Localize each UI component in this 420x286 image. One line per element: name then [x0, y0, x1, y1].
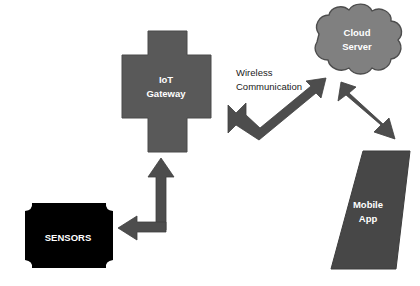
cloud-server-label-line1: Cloud: [344, 27, 371, 38]
node-cloud-server[interactable]: Cloud Server: [315, 4, 401, 74]
iot-gateway-label-line1: IoT: [159, 74, 173, 85]
edge-sensors-gateway[interactable]: [118, 158, 178, 245]
node-iot-gateway[interactable]: IoT Gateway: [122, 31, 211, 152]
mobile-app-label-line1: Mobile: [353, 199, 383, 210]
mobile-app-label-line2: App: [359, 213, 378, 224]
wireless-communication-label-line2: Communication: [236, 81, 302, 92]
node-sensors[interactable]: SENSORS: [25, 203, 113, 268]
iot-architecture-diagram: IoT Gateway Cloud Server Mobile App SENS…: [0, 0, 420, 286]
edge-cloud-mobile-arrow: [338, 82, 395, 139]
edge-gateway-cloud[interactable]: Wireless Communication: [228, 67, 326, 140]
diagram-canvas: IoT Gateway Cloud Server Mobile App SENS…: [0, 0, 420, 286]
iot-gateway-label-line2: Gateway: [146, 88, 186, 99]
cloud-server-label-line2: Server: [342, 41, 372, 52]
wireless-communication-label-line1: Wireless: [236, 67, 273, 78]
sensors-label: SENSORS: [45, 232, 91, 243]
mobile-app-shape: [331, 151, 410, 269]
node-mobile-app[interactable]: Mobile App: [331, 151, 410, 269]
edge-gateway-up-arrow: [148, 158, 174, 230]
edge-cloud-mobile[interactable]: [338, 82, 395, 139]
cloud-server-shape: [315, 4, 401, 74]
